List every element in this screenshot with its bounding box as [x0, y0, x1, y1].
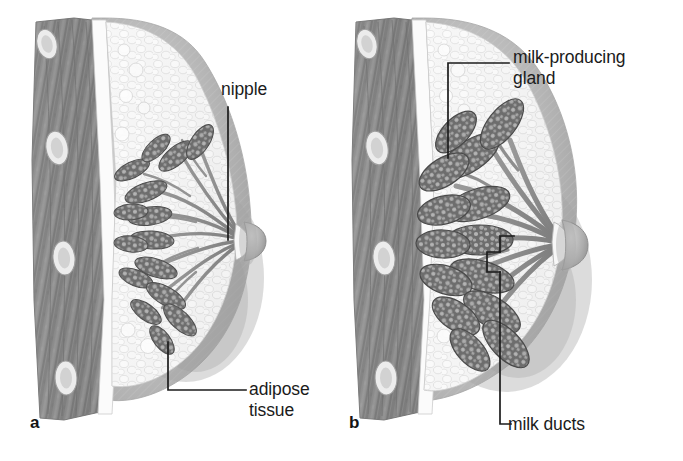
label-gland-line2: gland	[513, 68, 555, 88]
label-milk-producing-gland: milk-producinggland	[513, 47, 625, 90]
areola-a	[239, 217, 257, 265]
label-adipose-line2: tissue	[249, 400, 294, 420]
label-nipple: nipple	[221, 79, 267, 100]
anatomical-figure: nipple milk-producinggland adiposetissue…	[0, 0, 683, 461]
panel-letter-a: a	[30, 413, 39, 433]
label-gland-line1: milk-producing	[513, 47, 625, 67]
label-milk-ducts: milk ducts	[508, 414, 585, 435]
panel-letter-b: b	[349, 413, 359, 433]
areola-b	[556, 218, 576, 272]
label-adipose-line1: adipose	[249, 379, 310, 399]
label-adipose-tissue: adiposetissue	[249, 379, 310, 422]
